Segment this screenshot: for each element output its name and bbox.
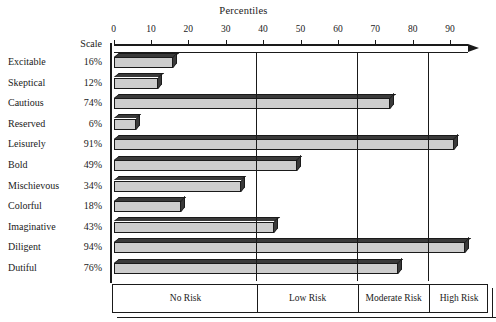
x-axis-tick-label: 60 (333, 24, 343, 34)
value-label: 43% (62, 221, 102, 232)
value-label: 74% (62, 97, 102, 108)
x-axis-tick-label: 70 (371, 24, 381, 34)
risk-band-cell: No Risk (115, 285, 257, 312)
risk-band-legend: No RiskLow RiskModerate RiskHigh Risk (112, 284, 488, 313)
bar-side-face (454, 134, 458, 150)
bar-side-face (297, 155, 301, 171)
bar-top-face (114, 94, 396, 98)
bar-side-face (390, 93, 394, 109)
bar-side-face (136, 114, 140, 130)
bar-top-face (114, 259, 403, 263)
bar-top-face (114, 197, 186, 201)
chart-title: Percentiles (0, 5, 487, 16)
x-axis-tick-label: 20 (184, 24, 194, 34)
bar-top-face (114, 238, 471, 242)
bar (114, 78, 159, 89)
bar (114, 201, 181, 212)
bar-side-face (274, 217, 278, 233)
scale-header-label: Scale (62, 38, 102, 49)
risk-band-cell: Moderate Risk (358, 285, 429, 312)
risk-band-divider (256, 53, 257, 281)
bar-top-face (114, 135, 459, 139)
value-label: 16% (62, 56, 102, 67)
x-axis-tick-label: 50 (296, 24, 306, 34)
bar-top-face (114, 156, 302, 160)
y-axis-line (110, 43, 112, 283)
x-axis-tick-label: 80 (408, 24, 418, 34)
bar-top-face (114, 176, 246, 180)
x-axis-tick-label: 90 (445, 24, 455, 34)
risk-band-divider (357, 53, 358, 281)
bar (114, 119, 136, 130)
value-label: 94% (62, 241, 102, 252)
value-label: 76% (62, 262, 102, 273)
bar (114, 139, 454, 150)
bar-side-face (465, 237, 469, 253)
x-axis-tick-label: 0 (111, 24, 116, 34)
risk-band-cell: High Risk (429, 285, 489, 312)
bar (114, 57, 174, 68)
risk-band-cell: Low Risk (257, 285, 358, 312)
bar (114, 181, 241, 192)
legend-shadow-bottom (117, 317, 496, 319)
bar-side-face (173, 52, 177, 68)
value-label: 34% (62, 180, 102, 191)
x-axis-tick-label: 10 (146, 24, 156, 34)
value-label: 91% (62, 138, 102, 149)
bar-side-face (181, 196, 185, 212)
bar (114, 160, 297, 171)
legend-shadow-side (492, 288, 494, 317)
bar-top-face (114, 73, 164, 77)
risk-band-divider (428, 53, 429, 281)
value-label: 49% (62, 159, 102, 170)
bar (114, 242, 466, 253)
bar-side-face (158, 72, 162, 88)
axis-arrow-icon (468, 44, 479, 52)
x-axis-tick-label: 40 (258, 24, 268, 34)
value-label: 12% (62, 77, 102, 88)
value-label: 18% (62, 200, 102, 211)
bar (114, 98, 391, 109)
bar-top-face (114, 53, 179, 57)
bar (114, 222, 275, 233)
axis-top-edge (114, 44, 469, 46)
bar-top-face (114, 217, 280, 221)
value-label: 6% (62, 118, 102, 129)
x-axis-tick-label: 30 (221, 24, 231, 34)
